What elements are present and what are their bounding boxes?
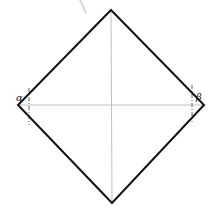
- faint-mark: [80, 0, 86, 13]
- angle-label-beta: β: [195, 91, 202, 102]
- rhombus-diagram: α β: [0, 0, 221, 213]
- angle-label-alpha: α: [16, 92, 23, 103]
- vertical-diagonal: [111, 10, 112, 203]
